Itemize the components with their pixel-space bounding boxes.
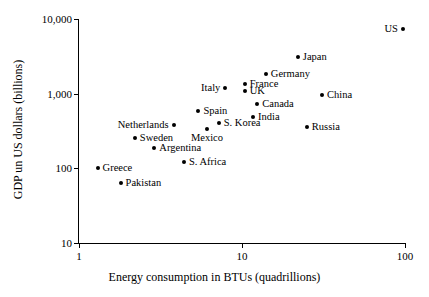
data-point-marker (217, 121, 221, 125)
y-tick-label: 10,000 (42, 14, 72, 25)
data-point-marker (205, 127, 209, 131)
plot-area: 101001,00010,000 110100 USJapanGermanyFr… (78, 19, 405, 244)
data-point-label: Russia (312, 122, 340, 133)
y-tick-mark (74, 19, 79, 20)
y-tick-label: 10 (61, 238, 72, 249)
data-point-label: Argentina (159, 142, 201, 153)
data-point-marker (133, 136, 137, 140)
y-axis-title: GDP un US dollars (billions) (11, 15, 26, 245)
data-point-marker (182, 160, 186, 164)
y-tick-label: 1,000 (47, 88, 72, 99)
data-point-label: Canada (262, 99, 294, 110)
data-point-marker (243, 89, 247, 93)
data-point-label: Netherlands (118, 120, 169, 131)
data-point-marker (264, 72, 268, 76)
data-point-marker (320, 93, 324, 97)
data-point-label: Spain (203, 106, 227, 117)
data-point-label: Italy (201, 83, 220, 94)
x-tick-mark (242, 243, 243, 248)
y-tick-mark (74, 168, 79, 169)
data-point-label: Japan (303, 52, 327, 63)
data-point-label: India (258, 112, 280, 123)
data-point-label: China (327, 90, 352, 101)
data-point-marker (296, 55, 300, 59)
x-tick-mark (405, 243, 406, 248)
y-tick-label: 100 (56, 163, 73, 174)
x-axis-title: Energy consumption in BTUs (quadrillions… (0, 270, 429, 285)
data-point-marker (119, 181, 123, 185)
data-point-marker (223, 86, 227, 90)
data-point-label: UK (250, 85, 265, 96)
x-tick-label: 1 (76, 251, 82, 262)
data-point-marker (305, 125, 309, 129)
data-point-marker (152, 146, 156, 150)
data-point-marker (96, 166, 100, 170)
data-point-label: S. Korea (224, 117, 261, 128)
data-point-marker (243, 82, 247, 86)
data-point-marker (401, 27, 405, 31)
x-tick-label: 100 (397, 251, 414, 262)
data-point-label: US (384, 24, 397, 35)
data-point-marker (172, 123, 176, 127)
data-point-marker (196, 109, 200, 113)
data-point-label: Pakistan (126, 178, 162, 189)
data-point-label: S. Africa (189, 157, 226, 168)
data-point-label: Greece (103, 163, 133, 174)
x-tick-mark (79, 243, 80, 248)
y-tick-mark (74, 94, 79, 95)
data-point-marker (255, 102, 259, 106)
scatter-chart-figure: 101001,00010,000 110100 USJapanGermanyFr… (0, 0, 429, 297)
x-tick-label: 10 (237, 251, 248, 262)
